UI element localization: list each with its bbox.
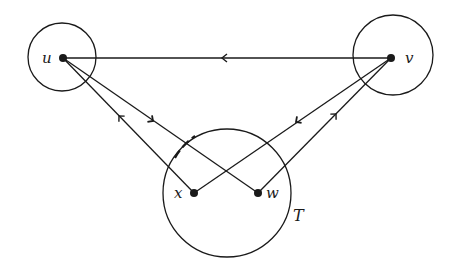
- vertex-x: [190, 189, 198, 197]
- label-T: T: [293, 206, 305, 225]
- label-w: w: [266, 184, 279, 202]
- label-u: u: [42, 49, 52, 67]
- vertex-u: [59, 54, 67, 62]
- edge-v-x: [194, 58, 391, 193]
- edge-u-w: [63, 58, 258, 193]
- label-v: v: [405, 49, 414, 67]
- vertex-v: [387, 54, 395, 62]
- vertex-w: [254, 189, 262, 197]
- edge-x-u: [63, 58, 194, 193]
- label-x: x: [174, 184, 183, 202]
- edge-w-v: [258, 58, 391, 193]
- graph-diagram: u v x w T: [0, 0, 454, 271]
